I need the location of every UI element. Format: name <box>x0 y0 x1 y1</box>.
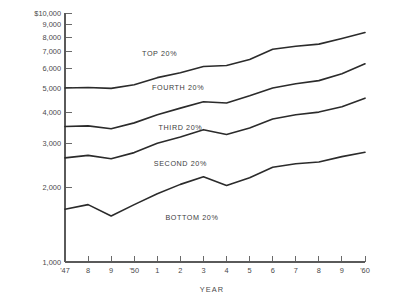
y-tick-label: 4,000 <box>43 108 62 117</box>
y-tick-label: 2,000 <box>43 183 62 192</box>
x-tick-label: 8 <box>86 266 90 275</box>
x-tick-label: 1 <box>155 266 159 275</box>
y-tick-label: 9,000 <box>43 20 62 29</box>
x-tick-label: 8 <box>317 266 321 275</box>
y-tick-label: 8,000 <box>43 33 62 42</box>
y-tick-label: 7,000 <box>43 47 62 56</box>
y-tick-label: 1,000 <box>43 258 62 267</box>
y-tick-label: $10,000 <box>34 9 61 18</box>
x-tick-label: 3 <box>201 266 205 275</box>
x-tick-label: 5 <box>248 266 252 275</box>
series-line <box>65 152 365 216</box>
y-tick-label: 5,000 <box>43 84 62 93</box>
series-label: FOURTH 20% <box>152 83 204 92</box>
series-label: SECOND 20% <box>154 159 207 168</box>
series-label: TOP 20% <box>142 49 177 58</box>
income-quintile-chart: $10,0009,0008,0007,0006,0005,0004,0003,0… <box>0 0 395 300</box>
x-tick-label: 9 <box>109 266 113 275</box>
series-lines <box>65 33 365 217</box>
x-tick-label: '50 <box>129 266 139 275</box>
x-tick-label: '60 <box>360 266 370 275</box>
y-axis-ticks <box>65 13 72 262</box>
y-axis-tick-labels: $10,0009,0008,0007,0006,0005,0004,0003,0… <box>34 9 61 267</box>
x-axis-tick-labels: '4789'50123456789'60 <box>60 266 370 275</box>
x-tick-label: 9 <box>340 266 344 275</box>
x-axis-title: YEAR <box>200 285 225 294</box>
series-label: THIRD 20% <box>159 123 203 132</box>
x-tick-label: 6 <box>271 266 275 275</box>
series-line <box>65 64 365 129</box>
x-tick-label: 4 <box>224 266 228 275</box>
series-label: BOTTOM 20% <box>165 213 218 222</box>
x-tick-label: 2 <box>178 266 182 275</box>
y-tick-label: 3,000 <box>43 139 62 148</box>
x-tick-label: 7 <box>294 266 298 275</box>
x-tick-label: '47 <box>60 266 70 275</box>
y-tick-label: 6,000 <box>43 64 62 73</box>
chart-plot-area: $10,0009,0008,0007,0006,0005,0004,0003,0… <box>0 0 395 300</box>
x-axis-ticks <box>65 256 365 262</box>
